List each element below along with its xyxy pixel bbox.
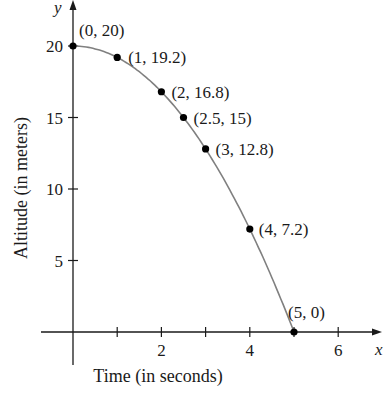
y-tick-label: 15 [46,109,63,128]
x-axis-letter: x [374,340,383,359]
y-axis-letter: y [52,0,62,17]
data-point-marker [180,114,187,121]
data-point-marker [290,328,297,335]
data-point-marker [114,54,121,61]
data-point-label: (2, 16.8) [171,83,229,102]
data-point-label: (0, 20) [79,21,124,40]
data-point-marker [158,88,165,95]
data-point-label: (5, 0) [288,303,325,322]
altitude-chart: x y 246 5101520 (0, 20)(1, 19.2)(2, 16.8… [0,0,390,402]
data-point-label: (1, 19.2) [128,48,186,67]
data-point-marker [202,145,209,152]
y-tick-label: 20 [46,37,63,56]
data-point-marker [246,225,253,232]
y-axis-arrow-icon [70,0,77,10]
data-points: (0, 20)(1, 19.2)(2, 16.8)(2.5, 15)(3, 12… [69,21,324,336]
y-axis-label: Altitude (in meters) [11,117,32,259]
x-axis-label: Time (in seconds) [93,366,222,387]
x-tick-label: 2 [157,341,166,360]
data-point-label: (3, 12.8) [216,140,274,159]
x-axis-arrow-icon [372,329,382,336]
data-point-label: (2.5, 15) [194,109,252,128]
x-tick-label: 4 [246,341,255,360]
y-tick-label: 10 [46,180,63,199]
data-point-label: (4, 7.2) [259,220,309,239]
x-tick-label: 6 [334,341,343,360]
data-point-marker [69,42,76,49]
x-axis: x [41,329,383,360]
y-tick-label: 5 [55,252,64,271]
